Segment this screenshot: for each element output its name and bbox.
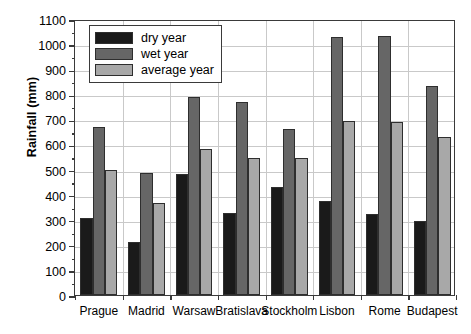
legend-item: wet year bbox=[95, 46, 214, 62]
y-axis-label: 600 bbox=[6, 139, 66, 153]
x-tick bbox=[408, 295, 409, 300]
bar bbox=[140, 173, 152, 295]
y-axis-label: 700 bbox=[6, 114, 66, 128]
bar bbox=[426, 86, 438, 295]
legend-label: average year bbox=[141, 63, 214, 77]
y-tick-minor bbox=[72, 183, 76, 184]
bar bbox=[248, 158, 260, 295]
legend-item: dry year bbox=[95, 30, 214, 46]
x-tick bbox=[361, 295, 362, 300]
bar bbox=[176, 174, 188, 295]
bar bbox=[319, 201, 331, 295]
y-axis-label: 0 bbox=[6, 290, 66, 304]
bar bbox=[331, 37, 343, 295]
bar bbox=[295, 158, 307, 295]
bar bbox=[391, 122, 403, 295]
x-tick bbox=[75, 295, 76, 300]
x-axis-label: Warsaw bbox=[173, 304, 216, 318]
x-tick bbox=[266, 295, 267, 300]
y-tick-major bbox=[69, 271, 75, 272]
legend-swatch-dry-year bbox=[95, 32, 133, 44]
bar bbox=[153, 203, 165, 295]
legend-label: wet year bbox=[141, 47, 188, 61]
y-tick-minor bbox=[72, 58, 76, 59]
y-axis-label: 200 bbox=[6, 240, 66, 254]
y-tick-minor bbox=[72, 259, 76, 260]
gridline-vertical bbox=[408, 21, 409, 295]
y-tick-major bbox=[69, 171, 75, 172]
x-axis-label: Madrid bbox=[128, 304, 165, 318]
gridline-horizontal bbox=[75, 96, 454, 97]
bar bbox=[343, 121, 355, 295]
y-tick-major bbox=[69, 121, 75, 122]
legend-label: dry year bbox=[141, 31, 186, 45]
y-tick-minor bbox=[72, 133, 76, 134]
bar bbox=[200, 149, 212, 295]
bar bbox=[366, 214, 378, 295]
y-tick-major bbox=[69, 45, 75, 46]
y-tick-major bbox=[69, 221, 75, 222]
y-tick-minor bbox=[72, 209, 76, 210]
x-axis-label: Budapest bbox=[407, 304, 458, 318]
y-axis-label: 1100 bbox=[6, 14, 66, 28]
y-axis-label: 900 bbox=[6, 64, 66, 78]
bar bbox=[378, 36, 390, 295]
y-tick-minor bbox=[72, 234, 76, 235]
y-tick-minor bbox=[72, 284, 76, 285]
bar bbox=[283, 129, 295, 295]
y-axis-label: 100 bbox=[6, 265, 66, 279]
bar bbox=[188, 97, 200, 295]
legend-item: average year bbox=[95, 62, 214, 78]
x-tick bbox=[218, 295, 219, 300]
x-tick bbox=[456, 295, 457, 300]
x-axis-label: Prague bbox=[79, 304, 118, 318]
gridline-vertical bbox=[361, 21, 362, 295]
bar bbox=[236, 102, 248, 295]
y-tick-minor bbox=[72, 83, 76, 84]
bar bbox=[271, 187, 283, 295]
y-tick-major bbox=[69, 20, 75, 21]
y-tick-major bbox=[69, 96, 75, 97]
chart-legend: dry yearwet yearaverage year bbox=[89, 25, 222, 83]
y-tick-major bbox=[69, 246, 75, 247]
gridline-vertical bbox=[313, 21, 314, 295]
bar bbox=[80, 218, 92, 295]
x-tick bbox=[123, 295, 124, 300]
legend-swatch-average-year bbox=[95, 64, 133, 76]
bar bbox=[128, 242, 140, 295]
gridline-vertical bbox=[266, 21, 267, 295]
y-axis-label: 400 bbox=[6, 190, 66, 204]
plot-area: 010020030040050060070080090010001100 Pra… bbox=[74, 20, 455, 296]
y-axis-label: 1000 bbox=[6, 39, 66, 53]
y-axis-label: 800 bbox=[6, 89, 66, 103]
x-axis-label: Rome bbox=[369, 304, 401, 318]
y-tick-minor bbox=[72, 108, 76, 109]
bar bbox=[93, 127, 105, 295]
x-axis-label: Stockholm bbox=[261, 304, 317, 318]
x-tick bbox=[170, 295, 171, 300]
y-tick-major bbox=[69, 71, 75, 72]
y-tick-major bbox=[69, 146, 75, 147]
x-tick bbox=[313, 295, 314, 300]
y-tick-minor bbox=[72, 33, 76, 34]
y-axis-label: 300 bbox=[6, 215, 66, 229]
bar bbox=[105, 170, 117, 295]
bar bbox=[223, 213, 235, 295]
bar bbox=[414, 221, 426, 295]
x-axis-label: Lisbon bbox=[319, 304, 354, 318]
bar bbox=[438, 137, 450, 295]
y-tick-minor bbox=[72, 158, 76, 159]
rainfall-bar-chart: Rainfall (mm) 01002003004005006007008009… bbox=[0, 0, 471, 334]
legend-swatch-wet-year bbox=[95, 48, 133, 60]
y-axis-label: 500 bbox=[6, 165, 66, 179]
y-tick-major bbox=[69, 196, 75, 197]
x-axis-label: Bratislava bbox=[215, 304, 268, 318]
